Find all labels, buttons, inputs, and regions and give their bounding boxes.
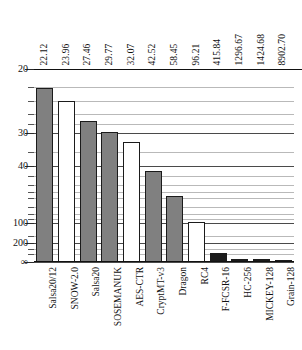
value-label-group: 22.1223.9627.4629.7732.0742.5258.4596.21… [0,0,302,69]
value-label: 415.84 [213,38,223,65]
y-axis: 203040100200∞ [0,60,34,270]
bar-aes-ctr [123,142,140,262]
value-label: 42.52 [148,43,158,65]
x-tick-label: Dragon [179,267,189,296]
value-label: 29.77 [104,43,114,65]
value-label: 96.21 [191,43,201,65]
axis-baseline [34,261,294,262]
plot-area [34,69,294,262]
value-label: 22.12 [39,43,49,65]
x-tick-label: RC4 [201,267,211,284]
x-tick-label: SNOW-2.0 [71,267,81,310]
gridline-major [34,262,294,263]
x-tick-label: CryptMT-v3 [157,267,167,315]
y-tick-label: ∞ [21,257,28,267]
bar-snow-2-0 [58,101,75,262]
y-tick-label: 20 [18,64,28,74]
x-tick-label: Grain-128 [287,267,297,306]
value-label: 1424.68 [256,33,266,65]
value-label: 23.96 [61,43,71,65]
x-tick-label: Salsa20/12 [49,267,59,309]
value-label: 32.07 [126,43,136,65]
value-label: 27.46 [83,43,93,65]
x-tick-label: MICKEY-128 [266,267,276,321]
y-tick-label: 200 [13,238,28,248]
bar-salsa20 [80,121,97,262]
x-tick-label: HC-256 [244,267,254,298]
x-tick-label: SOSEMANUK [114,267,124,326]
bar-rc4 [188,222,205,262]
x-tick-label: Salsa20 [92,267,102,297]
x-axis: Salsa20/12SNOW-2.0Salsa20SOSEMANUKAES-CT… [34,264,294,350]
y-tick-label: 40 [18,161,28,171]
value-label: 1296.67 [234,33,244,65]
bar-salsa20-12 [36,88,53,263]
value-label: 58.45 [169,43,179,65]
bar-sosemanuk [101,132,118,262]
bar-chart: 22.1223.9627.4629.7732.0742.5258.4596.21… [0,0,302,350]
bar-cryptmt-v3 [145,171,162,262]
value-label: 8902.70 [278,33,288,65]
x-tick-label: AES-CTR [136,267,146,307]
bar-dragon [166,196,183,262]
x-tick-label: F-FCSR-16 [222,267,232,311]
y-tick-label: 100 [13,218,28,228]
y-tick-label: 30 [18,128,28,138]
bar-group [34,69,294,262]
